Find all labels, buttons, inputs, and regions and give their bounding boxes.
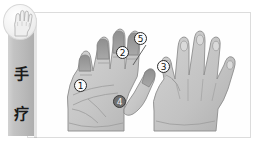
illustration-root: 1 2 3 4 5 手 疗 bbox=[0, 0, 258, 151]
marker-5[interactable]: 5 bbox=[134, 32, 147, 45]
marker-1-label: 1 bbox=[78, 81, 84, 91]
marker-1[interactable]: 1 bbox=[74, 79, 87, 92]
right-hand-dorsal bbox=[153, 31, 235, 131]
marker-4[interactable]: 4 bbox=[113, 95, 126, 108]
sidebar-label-char-2: 疗 bbox=[8, 104, 34, 124]
hand-illustration-panel bbox=[27, 12, 251, 138]
marker-2[interactable]: 2 bbox=[116, 46, 129, 59]
marker-2-label: 2 bbox=[120, 48, 126, 58]
sidebar-label-char-1: 手 bbox=[8, 64, 34, 84]
marker-5-label: 5 bbox=[138, 34, 144, 44]
sidebar-label: 手 疗 bbox=[8, 44, 34, 144]
marker-3[interactable]: 3 bbox=[157, 60, 170, 73]
marker-3-label: 3 bbox=[161, 62, 167, 72]
hand-icon bbox=[4, 5, 37, 40]
hand-icon-badge[interactable] bbox=[3, 4, 37, 40]
marker-4-label: 4 bbox=[117, 97, 123, 107]
